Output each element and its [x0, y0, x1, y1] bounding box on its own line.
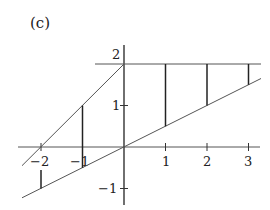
diagram-canvas: (c) −2 −1 1 2 3 2 1 −1 — [0, 0, 270, 210]
x-tick-label-2: 2 — [203, 154, 211, 169]
vertical-segments — [41, 64, 249, 189]
x-tick-label-1: 1 — [162, 154, 170, 169]
x-tick-label-3: 3 — [244, 154, 252, 169]
y-tick-label-neg1: −1 — [98, 181, 117, 196]
figure-caption: (c) — [30, 14, 50, 32]
x-tick-label-neg2: −2 — [30, 154, 49, 169]
y-tick-label-1: 1 — [112, 98, 120, 113]
y-tick-label-2: 2 — [112, 47, 120, 62]
line-y-eq-half-x — [22, 79, 261, 198]
x-tick-label-neg1: −1 — [70, 154, 89, 169]
line-y-eq-x-plus-2 — [22, 64, 124, 166]
